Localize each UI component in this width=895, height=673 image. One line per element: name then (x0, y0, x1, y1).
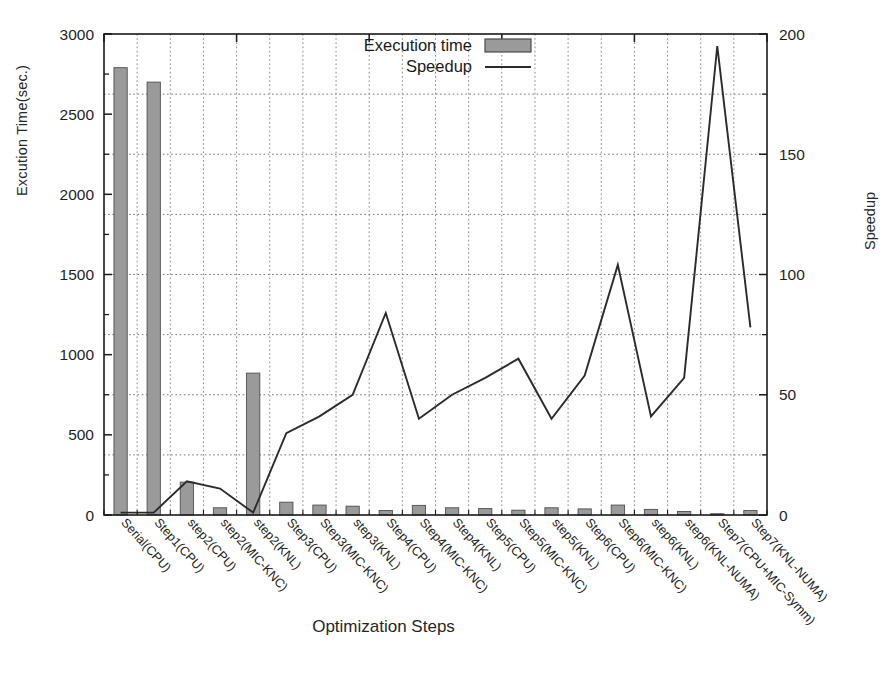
legend-swatch-execution-time (485, 39, 531, 52)
y-axis-label-left: Excution Time(sec.) (14, 0, 30, 196)
y-axis-label-right: Speedup (862, 50, 878, 250)
tick-label-left: 2500 (60, 106, 95, 123)
bar (479, 509, 492, 515)
x-axis-label: Optimization Steps (0, 617, 767, 637)
bar (213, 508, 226, 515)
tick-label-left: 3000 (60, 26, 95, 43)
bar (611, 505, 624, 515)
tick-label-right: 150 (779, 146, 805, 163)
chart-figure: 050010001500200025003000 050100150200 Se… (0, 0, 895, 673)
category-labels: Serial(CPU)Step1(CPU)step2(CPU)step2(MIC… (118, 516, 830, 628)
bar (545, 508, 558, 515)
tick-label-right: 50 (779, 386, 797, 403)
bar (445, 508, 458, 515)
bar (644, 509, 657, 515)
tick-label-right: 0 (779, 507, 788, 524)
bar (313, 505, 326, 515)
tick-label-left: 500 (68, 426, 94, 443)
bar (114, 68, 127, 515)
tick-label-right: 100 (779, 266, 805, 283)
bar (180, 482, 193, 515)
tick-label-left: 1500 (60, 266, 95, 283)
legend-label-execution-time: Execution time (364, 36, 472, 54)
bar (412, 505, 425, 515)
bar (147, 82, 160, 515)
gridlines (104, 34, 767, 515)
bar (346, 506, 359, 515)
bar (578, 509, 591, 515)
legend-label-speedup: Speedup (406, 57, 472, 75)
bar (247, 373, 260, 515)
tick-label-left: 2000 (60, 186, 95, 203)
tick-label-left: 1000 (60, 346, 95, 363)
tick-label-right: 200 (779, 26, 805, 43)
tick-label-left: 0 (85, 507, 94, 524)
bar (280, 502, 293, 515)
